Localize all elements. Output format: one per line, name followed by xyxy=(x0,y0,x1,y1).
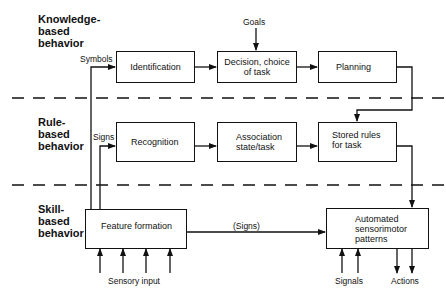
box-recognition-text: Recognition xyxy=(131,137,179,147)
label-actions: Actions xyxy=(391,276,419,286)
box-association-text-1: Association xyxy=(236,132,282,142)
box-feature-text: Feature formation xyxy=(101,221,172,231)
level-rule-line3: behavior xyxy=(38,140,84,152)
box-planning: Planning xyxy=(318,51,397,83)
level-skill-label: Skill- based behavior xyxy=(38,203,84,239)
level-skill-line2: based xyxy=(38,215,84,227)
box-association-text-2: state/task xyxy=(236,142,282,152)
box-automated-text-1: Automated xyxy=(355,214,407,224)
box-recognition: Recognition xyxy=(116,122,195,162)
box-decision: Decision, choice of task xyxy=(217,51,297,83)
level-knowledge-label: Knowledge- based behavior xyxy=(38,13,100,49)
level-skill-line1: Skill- xyxy=(38,203,84,215)
box-identification-text: Identification xyxy=(130,62,181,72)
level-rule-label: Rule- based behavior xyxy=(38,116,84,152)
level-knowledge-line2: based xyxy=(38,25,100,37)
label-symbols: Symbols xyxy=(80,54,113,64)
box-automated-patterns: Automated sensorimotor patterns xyxy=(326,208,429,249)
box-stored-text-1: Stored rules xyxy=(332,130,381,140)
label-sensory-input: Sensory input xyxy=(108,276,160,286)
box-automated-text-3: patterns xyxy=(355,234,407,244)
box-decision-text-2: of task xyxy=(224,67,290,77)
label-signals: Signals xyxy=(335,276,363,286)
label-signs: Signs xyxy=(93,132,114,142)
label-goals: Goals xyxy=(243,17,265,27)
level-rule-line1: Rule- xyxy=(38,116,84,128)
box-decision-text-1: Decision, choice xyxy=(224,57,290,67)
box-stored-rules: Stored rules for task xyxy=(318,122,397,162)
box-planning-text: Planning xyxy=(336,62,371,72)
box-stored-text-2: for task xyxy=(332,140,381,150)
box-identification: Identification xyxy=(116,51,195,83)
level-knowledge-line3: behavior xyxy=(38,37,100,49)
level-rule-line2: based xyxy=(38,128,84,140)
box-feature-formation: Feature formation xyxy=(85,209,187,249)
label-signs-paren: (Signs) xyxy=(233,221,260,231)
box-association: Association state/task xyxy=(217,122,297,162)
box-automated-text-2: sensorimotor xyxy=(355,224,407,234)
level-knowledge-line1: Knowledge- xyxy=(38,13,100,25)
level-skill-line3: behavior xyxy=(38,227,84,239)
